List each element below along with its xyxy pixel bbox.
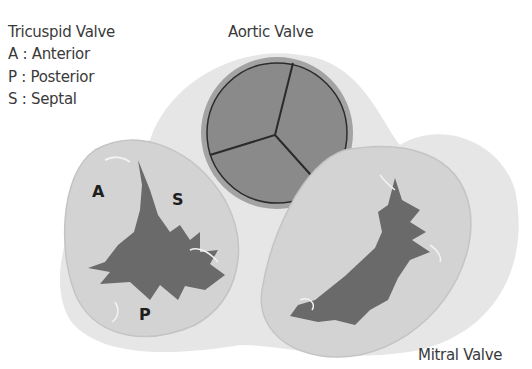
legend-septal: S : Septal bbox=[8, 90, 77, 108]
legend-sep: : bbox=[22, 90, 27, 108]
leaflet-label-anterior: A bbox=[92, 182, 104, 201]
legend-posterior: P : Posterior bbox=[8, 68, 94, 86]
legend-text: Posterior bbox=[30, 68, 94, 86]
leaflet-label-septal: S bbox=[172, 190, 184, 209]
heart-valves-diagram: Tricuspid Valve A : Anterior P : Posteri… bbox=[0, 0, 532, 369]
aortic-valve-label: Aortic Valve bbox=[228, 23, 313, 41]
legend-key: S bbox=[8, 90, 17, 108]
legend-key: A bbox=[8, 45, 18, 63]
legend-text: Anterior bbox=[32, 45, 90, 63]
tricuspid-valve-title: Tricuspid Valve bbox=[8, 23, 115, 41]
legend-sep: : bbox=[22, 45, 27, 63]
leaflet-label-posterior: P bbox=[139, 305, 151, 324]
mitral-valve-label: Mitral Valve bbox=[418, 346, 502, 364]
legend-anterior: A : Anterior bbox=[8, 45, 90, 63]
legend-sep: : bbox=[21, 68, 26, 86]
legend-text: Septal bbox=[31, 90, 77, 108]
legend-key: P bbox=[8, 68, 17, 86]
